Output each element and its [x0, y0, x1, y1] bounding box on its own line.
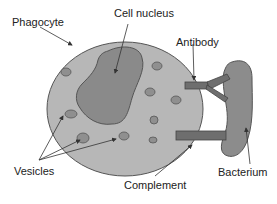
complement [176, 131, 226, 140]
label-bacterium: Bacterium [218, 167, 268, 178]
phagocyte-arrow [40, 27, 72, 45]
label-antibody: Antibody [176, 37, 219, 48]
label-vesicles: Vesicles [14, 166, 54, 177]
label-cell-nucleus: Cell nucleus [114, 8, 174, 19]
label-phagocyte: Phagocyte [12, 17, 64, 28]
label-complement: Complement [124, 180, 186, 191]
antibody-arrow [193, 44, 194, 80]
